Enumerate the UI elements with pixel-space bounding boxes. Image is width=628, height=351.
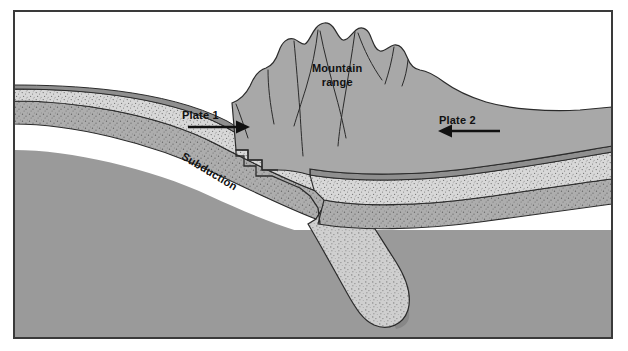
cross-section-illustration [0,0,628,351]
diagram-canvas: Mountain range Plate 1 Plate 2 Subductio… [0,0,628,351]
mantle-deep-fill [14,230,612,338]
